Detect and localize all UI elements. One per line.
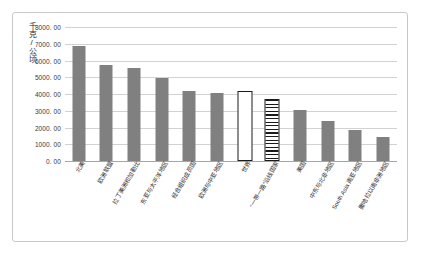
bar[interactable]: [72, 46, 85, 161]
y-tick-label: 2000. 00: [35, 124, 61, 131]
plot-area: 8000. 007000. 006000. 005000. 004000. 00…: [65, 27, 397, 161]
bar-slot: [93, 27, 121, 161]
y-tick-label: 7000. 00: [35, 40, 61, 47]
y-tick-label: 5000. 00: [35, 74, 61, 81]
y-tick-label: 0. 00: [46, 158, 61, 165]
y-tick-label: 3000. 00: [35, 107, 61, 114]
y-tick-label: 1000. 00: [35, 141, 61, 148]
bar[interactable]: [237, 91, 252, 161]
y-axis-title: 千克/公顷: [22, 22, 36, 63]
bar[interactable]: [128, 68, 141, 161]
chart-frame: 千克/公顷 8000. 007000. 006000. 005000. 0040…: [12, 12, 408, 242]
bar[interactable]: [265, 99, 280, 161]
bar[interactable]: [211, 93, 224, 161]
bar-slot: [259, 27, 287, 161]
y-tick-label: 4000. 00: [35, 91, 61, 98]
bar[interactable]: [155, 78, 168, 161]
bar[interactable]: [100, 65, 113, 161]
y-tick-label: 6000. 00: [35, 57, 61, 64]
bar-slot: [120, 27, 148, 161]
y-tick-label: 8000. 00: [35, 24, 61, 31]
bar-slot: [314, 27, 342, 161]
bar-slot: [65, 27, 93, 161]
